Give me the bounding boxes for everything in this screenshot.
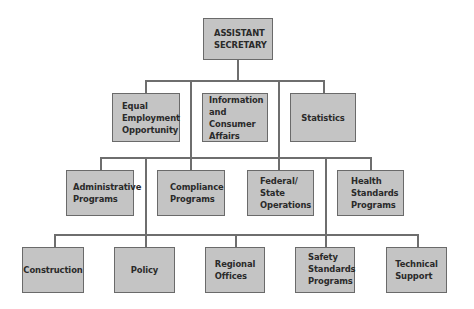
connector-trunk-level-3-left	[145, 157, 147, 235]
node-label: Technical Support	[395, 258, 438, 282]
node-technical-support: Technical Support	[386, 247, 447, 293]
node-policy: Policy	[114, 247, 175, 293]
node-label: Policy	[131, 264, 158, 276]
node-label: ASSISTANT SECRETARY	[214, 27, 267, 51]
node-statistics: Statistics	[290, 93, 356, 142]
connector-drop-policy	[145, 234, 147, 247]
node-label: Statistics	[301, 112, 344, 124]
node-label: Administrative Programs	[73, 181, 141, 205]
node-label: Health Standards Programs	[351, 175, 399, 211]
node-assistant-secretary: ASSISTANT SECRETARY	[203, 18, 273, 60]
node-compliance-programs: Compliance Programs	[157, 170, 225, 216]
node-safety-standards-programs: Safety Standards Programs	[295, 247, 355, 293]
node-information-consumer-affairs: Information and Consumer Affairs	[202, 93, 268, 142]
node-label: Safety Standards Programs	[308, 251, 356, 287]
connector-drop-technical-support	[417, 234, 419, 247]
node-label: Construction	[23, 264, 82, 276]
node-label: Regional Offices	[215, 258, 255, 282]
node-regional-offices: Regional Offices	[205, 247, 265, 293]
connector-trunk-right	[278, 80, 280, 158]
node-label: Compliance Programs	[170, 181, 224, 205]
node-construction: Construction	[22, 247, 84, 293]
connector-drop-regional-offices	[235, 234, 237, 247]
connector-bus-level-2	[100, 157, 371, 159]
connector-drop-safety-standards	[325, 234, 327, 247]
connector-drop-eeo	[145, 80, 147, 93]
connector-drop-construction	[54, 234, 56, 247]
connector-drop-statistics	[323, 80, 325, 93]
node-federal-state-operations: Federal/ State Operations	[247, 170, 314, 216]
connector-drop-compliance	[190, 157, 192, 170]
node-label: Federal/ State Operations	[260, 175, 311, 211]
node-equal-employment-opportunity: Equal Employment Opportunity	[112, 93, 180, 142]
node-administrative-programs: Administrative Programs	[66, 170, 134, 216]
connector-drop-federal-state	[278, 157, 280, 170]
node-label: Equal Employment Opportunity	[122, 100, 180, 136]
connector-drop-administrative	[100, 157, 102, 170]
node-health-standards-programs: Health Standards Programs	[337, 170, 404, 216]
org-chart: ASSISTANT SECRETARY Equal Employment Opp…	[0, 0, 474, 309]
node-label: Information and Consumer Affairs	[209, 94, 267, 142]
connector-root-down	[237, 60, 239, 81]
connector-bus-level-1	[145, 80, 324, 82]
connector-trunk-level-3-right	[325, 157, 327, 235]
connector-drop-health-standards	[370, 157, 372, 170]
connector-trunk-left	[190, 80, 192, 158]
